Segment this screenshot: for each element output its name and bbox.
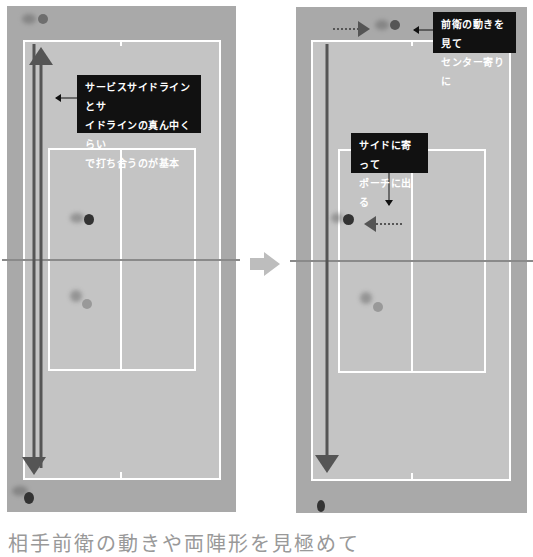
left-callout: サービスサイドラインとサ イドラインの真ん中くらい で打ち合うのが基本: [77, 75, 201, 133]
callout-line: ポーチに出る: [359, 174, 420, 212]
transition-arrow-icon: [250, 252, 280, 276]
callout-line: サービスサイドラインとサ: [85, 78, 193, 116]
callout-line: サイドに寄って: [359, 136, 420, 174]
callout-line: イドラインの真ん中くらい: [85, 116, 193, 154]
right-mid-callout: サイドに寄って ポーチに出る: [351, 133, 428, 173]
callout-line: 前衛の動きを見て: [441, 15, 508, 53]
callout-line: で打ち合うのが基本: [85, 154, 193, 173]
callout-line: センター寄りに: [441, 53, 508, 91]
right-top-callout: 前衛の動きを見て センター寄りに: [433, 12, 516, 53]
caption-text: 相手前衛の動きや両陣形を見極めて: [8, 528, 360, 557]
